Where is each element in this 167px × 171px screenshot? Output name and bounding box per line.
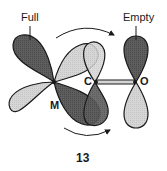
carbon-atom-dot xyxy=(94,80,98,84)
metal-lobe-upper-left xyxy=(13,35,54,82)
carbon-label: C xyxy=(84,76,92,87)
empty-label: Empty xyxy=(123,12,154,23)
metal-atom-dot xyxy=(52,80,56,84)
top-curved-arrow-icon xyxy=(56,28,114,38)
full-label: Full xyxy=(21,12,39,23)
bottom-curved-arrow-icon xyxy=(64,128,110,136)
metal-lobe-lower-left xyxy=(9,82,54,112)
oxygen-label: O xyxy=(140,76,149,87)
metal-label: M xyxy=(50,100,59,111)
carbon-lobe-bottom xyxy=(84,82,108,126)
oxygen-atom-dot xyxy=(133,80,137,84)
oxygen-lobe-bottom xyxy=(124,82,148,128)
figure-number: 13 xyxy=(76,152,89,164)
co-bond xyxy=(96,80,135,84)
